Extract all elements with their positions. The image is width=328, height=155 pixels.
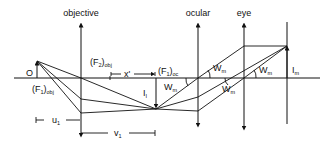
- f2-obj-label: (F2)obj: [90, 57, 112, 68]
- angle-label: Wm: [259, 65, 273, 76]
- angle-label: Wm: [213, 63, 227, 74]
- eye-label: eye: [237, 8, 252, 18]
- v1-label: v1: [114, 128, 122, 139]
- objective-label: objective: [63, 8, 99, 18]
- x-prime-label: x': [124, 69, 131, 79]
- f1-oc-label: (F1)oc: [158, 66, 179, 77]
- object-label: O: [26, 68, 33, 78]
- angle-label: Wm: [164, 82, 178, 93]
- microscope-ray-diagram: objective ocular eye O Wm Wm Wm Wm: [0, 0, 328, 155]
- intermediate-image-label: II: [143, 88, 148, 99]
- final-image-label: Im: [292, 65, 300, 76]
- f1-obj-label: (F1)obj: [32, 84, 54, 95]
- objective-rays: [37, 61, 156, 113]
- u1-label: u1: [52, 115, 60, 126]
- ocular-label: ocular: [186, 8, 211, 18]
